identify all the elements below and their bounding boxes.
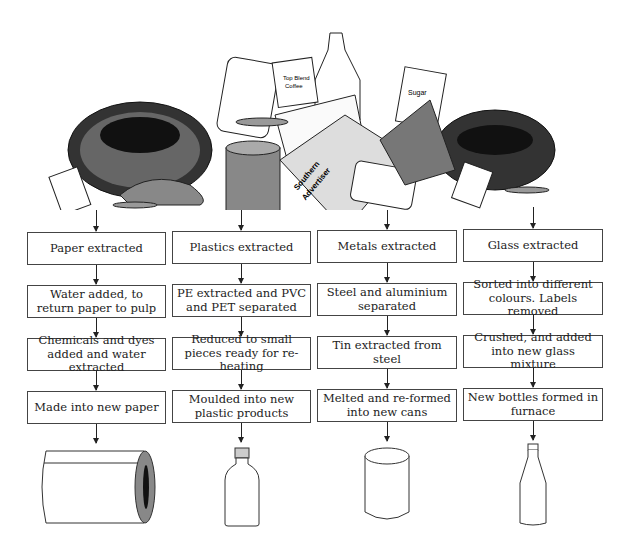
arrow-icon	[241, 264, 242, 283]
arrow-icon	[387, 316, 388, 335]
arrow-icon	[533, 421, 534, 440]
carrot-icon	[236, 118, 288, 126]
step-text: Glass extracted	[488, 239, 579, 253]
step-text: Tin extracted from steel	[321, 339, 453, 366]
carrot-icon	[505, 187, 549, 193]
jar-icon	[216, 56, 280, 139]
step-box: Tin extracted from steel	[317, 336, 457, 369]
arrow-icon	[241, 210, 242, 230]
step-box: Glass extracted	[463, 229, 603, 262]
step-text: PE extracted and PVC and PET separated	[176, 287, 307, 314]
step-text: Plastics extracted	[190, 241, 294, 255]
tire-icon	[435, 110, 555, 190]
step-text: Paper extracted	[50, 242, 143, 256]
carrot-icon	[113, 202, 157, 208]
arrow-icon	[533, 368, 534, 387]
arrow-icon	[387, 263, 388, 282]
arrow-icon	[96, 265, 97, 284]
can-icon	[363, 446, 411, 522]
arrow-icon	[96, 424, 97, 443]
step-text: Steel and aluminium separated	[321, 286, 453, 313]
step-text: Water added, to return paper to pulp	[31, 288, 162, 315]
step-box: Made into new paper	[27, 391, 166, 424]
step-text: Crushed, and added into new glass mixtur…	[467, 331, 599, 372]
svg-text:Coffee: Coffee	[285, 83, 303, 89]
coffee-tin-icon: Top Blend Coffee	[272, 57, 318, 107]
step-box: Plastics extracted	[172, 231, 311, 264]
step-text: Reduced to small pieces ready for re-hea…	[176, 333, 307, 374]
step-box: Melted and re-formed into new cans	[317, 389, 457, 422]
step-box: PE extracted and PVC and PET separated	[172, 284, 311, 317]
step-box: Metals extracted	[317, 230, 457, 263]
step-text: Moulded into new plastic products	[176, 393, 307, 420]
step-box: New bottles formed in furnace	[463, 388, 603, 421]
step-box: Paper extracted	[27, 232, 166, 265]
glass-bottle-icon	[516, 443, 550, 527]
step-box: Water added, to return paper to pulp	[27, 285, 166, 318]
step-text: Made into new paper	[34, 401, 158, 415]
arrow-icon	[241, 370, 242, 389]
svg-text:Sugar: Sugar	[408, 89, 427, 97]
plastic-bottle-icon	[222, 446, 262, 528]
arrow-icon	[387, 369, 388, 388]
step-box: Steel and aluminium separated	[317, 283, 457, 316]
step-text: Chemicals and dyes added and water extra…	[31, 334, 162, 375]
step-text: New bottles formed in furnace	[467, 391, 599, 418]
step-box: Moulded into new plastic products	[172, 390, 311, 423]
step-box: Sorted into different colours. Labels re…	[463, 282, 603, 315]
step-text: Metals extracted	[338, 240, 437, 254]
arrow-icon	[96, 371, 97, 390]
step-text: Melted and re-formed into new cans	[321, 392, 453, 419]
oil-drum-icon	[226, 141, 280, 210]
arrow-icon	[533, 207, 534, 228]
arrow-icon	[387, 422, 388, 441]
svg-text:Top Blend: Top Blend	[283, 75, 310, 81]
arrow-icon	[96, 210, 97, 231]
paper-roll-icon	[38, 447, 158, 527]
step-text: Sorted into different colours. Labels re…	[467, 278, 599, 319]
waste-pile-illustration: Top Blend Coffee Sugar Southern Advertis…	[0, 0, 629, 210]
arrow-icon	[241, 423, 242, 442]
arrow-icon	[387, 210, 388, 229]
step-box: Reduced to small pieces ready for re-hea…	[172, 337, 311, 370]
step-box: Chemicals and dyes added and water extra…	[27, 338, 166, 371]
step-box: Crushed, and added into new glass mixtur…	[463, 335, 603, 368]
